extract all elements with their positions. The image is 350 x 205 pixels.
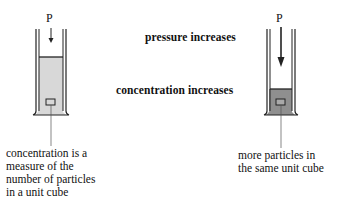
right-caption-line-1: more particles in <box>238 149 324 162</box>
right-caption-line-2: the same unit cube <box>238 162 324 175</box>
right-caption: more particles in the same unit cube <box>238 149 324 175</box>
right-cylinder <box>264 27 298 148</box>
left-caption-line-3: number of particles <box>6 173 95 186</box>
left-caption: concentration is a measure of the number… <box>6 147 95 199</box>
right-pressure-label: P <box>276 11 283 26</box>
left-cylinder <box>33 28 69 146</box>
left-caption-line-4: in a unit cube <box>6 186 95 199</box>
left-caption-line-1: concentration is a <box>6 147 95 160</box>
left-caption-line-2: measure of the <box>6 160 95 173</box>
left-pressure-label: P <box>46 11 53 26</box>
